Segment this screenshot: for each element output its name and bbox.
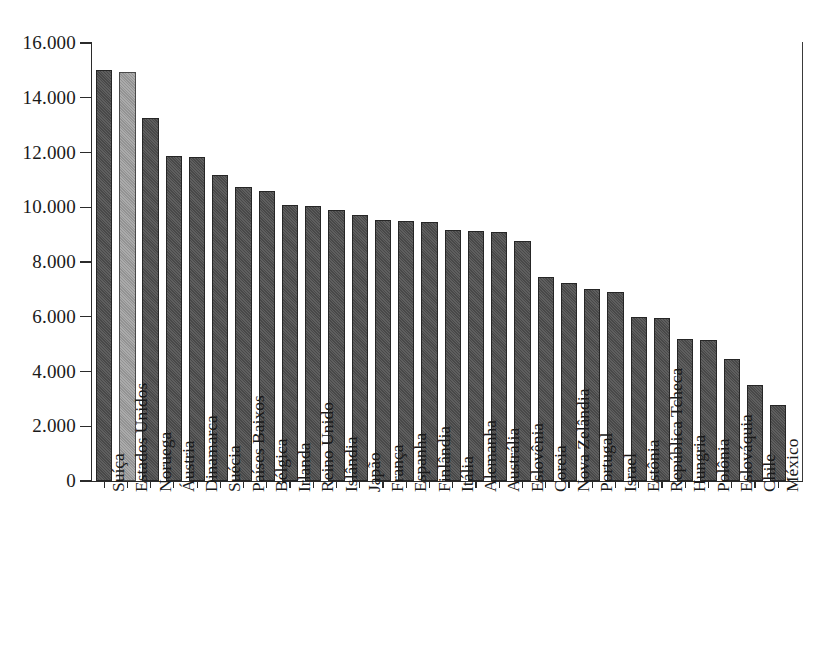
x-axis-category-label: Finlândia	[436, 426, 454, 492]
y-axis-tick	[80, 207, 91, 208]
x-axis-tick	[104, 482, 105, 488]
x-axis-tick	[731, 482, 732, 488]
x-axis-tick	[359, 482, 360, 488]
x-axis-tick	[220, 482, 221, 488]
x-axis-tick	[475, 482, 476, 488]
x-axis-tick	[406, 482, 407, 488]
x-axis-tick	[313, 482, 314, 488]
x-axis-tick	[127, 482, 128, 488]
y-axis-tick-label: 6.000	[2, 307, 76, 326]
x-axis-tick	[661, 482, 662, 488]
x-axis-tick	[685, 482, 686, 488]
bar-chart: 02.0004.0006.0008.00010.00012.00014.0001…	[0, 0, 827, 665]
x-axis-category-label: Eslovênia	[529, 423, 547, 492]
x-axis-category-label: Espanha	[412, 433, 430, 492]
x-axis-tick	[638, 482, 639, 488]
x-axis-category-label: Reino Unido	[319, 402, 337, 492]
x-axis-tick	[778, 482, 779, 488]
x-axis-tick	[592, 482, 593, 488]
x-axis-category-label: Áustria	[180, 440, 198, 492]
x-axis-category-label: Austrália	[505, 428, 523, 492]
x-axis-category-label: França	[389, 444, 407, 492]
x-axis-category-label: Polônia	[715, 439, 733, 492]
x-axis-tick	[568, 482, 569, 488]
x-axis-tick	[429, 482, 430, 488]
y-axis-tick	[80, 371, 91, 372]
y-axis-tick	[80, 316, 91, 317]
x-axis-category-label: Irlanda	[296, 442, 314, 492]
x-axis-category-label: Islândia	[343, 437, 361, 492]
x-axis-tick	[289, 482, 290, 488]
x-axis-tick	[615, 482, 616, 488]
y-axis-tick	[80, 42, 91, 43]
x-axis-tick	[382, 482, 383, 488]
y-axis-tick-label: 2.000	[2, 416, 76, 435]
y-axis-tick	[80, 261, 91, 262]
x-axis-category-label: México	[784, 439, 802, 492]
y-axis-tick	[80, 97, 91, 98]
bar	[375, 220, 391, 481]
bars-layer	[92, 43, 804, 481]
y-axis-tick-label: 12.000	[2, 143, 76, 162]
x-axis-category-label: Bélgica	[273, 439, 291, 492]
y-axis-tick-label: 8.000	[2, 252, 76, 271]
x-axis-category-label: Alemanha	[482, 420, 500, 492]
x-axis-category-label: Eslováquia	[738, 414, 756, 492]
x-axis-category-label: República Tcheca	[668, 368, 686, 492]
x-axis-category-label: Itália	[459, 456, 477, 492]
x-axis-category-label: Suíça	[110, 453, 128, 492]
x-axis-tick	[173, 482, 174, 488]
x-axis-category-label: Dinamarca	[203, 415, 221, 492]
x-axis-tick	[243, 482, 244, 488]
x-axis-category-label: Países Baixos	[250, 395, 268, 492]
x-axis-tick	[708, 482, 709, 488]
x-axis-tick	[754, 482, 755, 488]
y-axis-tick-label: 16.000	[2, 33, 76, 52]
y-axis-tick-label: 14.000	[2, 88, 76, 107]
x-axis-category-label: Noruega	[157, 432, 175, 492]
x-axis-tick	[522, 482, 523, 488]
x-axis-category-label: Coreia	[552, 445, 570, 492]
x-axis-tick	[545, 482, 546, 488]
y-axis-tick-label: 10.000	[2, 197, 76, 216]
x-axis-category-label: Chile	[761, 454, 779, 492]
x-axis-category-label: Suécia	[226, 445, 244, 492]
bar	[96, 70, 112, 481]
x-axis-category-label: Estados Unidos	[133, 383, 151, 492]
x-axis-tick	[197, 482, 198, 488]
x-axis-tick	[266, 482, 267, 488]
x-axis-tick	[499, 482, 500, 488]
y-axis-tick	[80, 426, 91, 427]
x-axis-category-label: Hungria	[691, 435, 709, 492]
x-axis-tick	[150, 482, 151, 488]
x-axis-category-label: Estônia	[645, 440, 663, 493]
y-axis-tick	[80, 480, 91, 481]
y-axis-tick-label: 0	[2, 471, 76, 490]
x-axis-category-label: Israel	[622, 453, 640, 492]
x-axis-category-label: Japão	[366, 452, 384, 492]
y-axis-tick-label: 4.000	[2, 362, 76, 381]
x-axis-tick	[336, 482, 337, 488]
x-axis-category-label: Portugal	[598, 433, 616, 492]
y-axis-tick	[80, 152, 91, 153]
x-axis-category-label: Nova Zelândia	[575, 389, 593, 493]
x-axis-tick	[452, 482, 453, 488]
